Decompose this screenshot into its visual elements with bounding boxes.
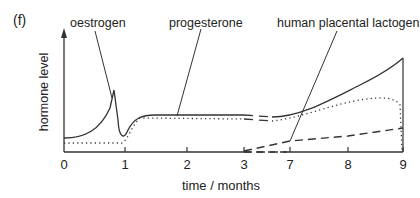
x-tick-9: 9 xyxy=(399,157,406,172)
series-progesterone xyxy=(64,118,244,143)
annotation-hpl: human placental lactogen xyxy=(277,16,419,30)
series-human-placental-lactogen xyxy=(244,128,403,151)
leader-progesterone xyxy=(177,29,201,116)
x-tick-2: 2 xyxy=(183,157,190,172)
series-oestrogen xyxy=(64,90,244,138)
x-tick-7: 7 xyxy=(286,157,293,172)
x-tick-3: 3 xyxy=(240,157,247,172)
x-tick-8: 8 xyxy=(344,157,351,172)
leader-hpl xyxy=(290,31,337,141)
y-axis-label: hormone level xyxy=(37,53,51,132)
leader-oestrogen xyxy=(95,31,112,98)
annotation-progesterone: progesterone xyxy=(169,16,243,30)
x-ticks xyxy=(125,147,403,152)
x-tick-1: 1 xyxy=(121,157,128,172)
x-tick-0: 0 xyxy=(60,157,67,172)
y-axis-arrow-icon xyxy=(61,28,67,38)
x-axis-label: time / months xyxy=(182,178,260,193)
annotation-oestrogen: oestrogen xyxy=(70,16,126,30)
